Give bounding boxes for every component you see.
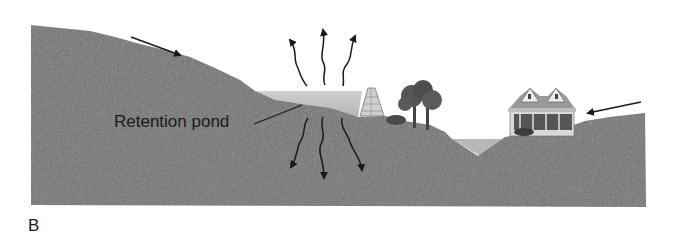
evaporation-arrow-1	[290, 40, 307, 86]
evaporation-arrow-2	[322, 30, 325, 85]
house	[508, 88, 576, 136]
panel-label: B	[28, 216, 39, 236]
dam	[360, 88, 384, 116]
trees	[386, 80, 442, 130]
evaporation-arrow-3	[343, 36, 355, 86]
runoff-arrow-right	[588, 102, 641, 113]
retention-pond-label: Retention pond	[114, 112, 229, 132]
diagram-canvas	[0, 0, 676, 245]
